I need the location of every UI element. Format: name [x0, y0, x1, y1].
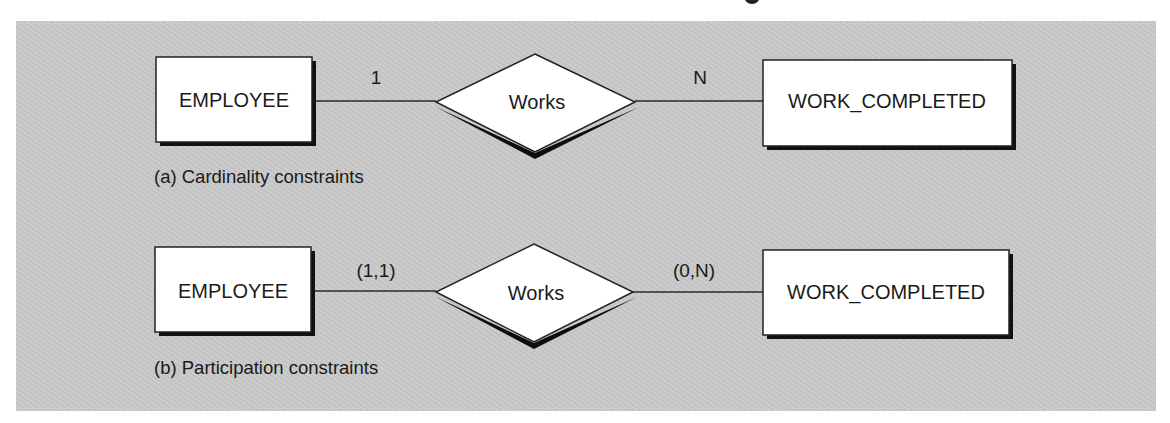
entity-employee[interactable]: EMPLOYEE	[156, 57, 316, 146]
entity-work-completed[interactable]: WORK_COMPLETED	[763, 60, 1016, 150]
relationship-works[interactable]: Works	[436, 54, 639, 159]
diagram-a: EMPLOYEE Works WORK_COMPLETED 1 N	[156, 54, 1016, 159]
caption-a: (a) Cardinality constraints	[154, 166, 364, 188]
cardinality-label-left: 1	[371, 67, 382, 88]
entity-employee[interactable]: EMPLOYEE	[155, 247, 315, 336]
entity-label: EMPLOYEE	[178, 280, 288, 302]
participation-label-left: (1,1)	[356, 260, 395, 281]
diagram-b: EMPLOYEE Works WORK_COMPLETED (1,1) (0,N…	[155, 244, 1013, 349]
relationship-label: Works	[509, 91, 565, 113]
caption-b: (b) Participation constraints	[154, 357, 378, 379]
participation-label-right: (0,N)	[673, 260, 715, 281]
entity-label: WORK_COMPLETED	[788, 90, 986, 113]
entity-work-completed[interactable]: WORK_COMPLETED	[763, 250, 1013, 339]
cardinality-label-right: N	[693, 67, 707, 88]
entity-label: EMPLOYEE	[179, 89, 289, 111]
entity-label: WORK_COMPLETED	[787, 281, 985, 304]
relationship-label: Works	[508, 282, 564, 304]
relationship-works[interactable]: Works	[436, 244, 637, 349]
